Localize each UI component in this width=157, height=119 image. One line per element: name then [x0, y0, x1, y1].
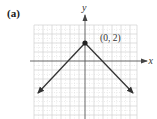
left-branch-line — [38, 43, 85, 93]
vertex-label: (0, 2) — [100, 33, 121, 44]
right-branch-line — [85, 43, 133, 93]
minor-grid — [34, 25, 137, 119]
vertex-point — [82, 40, 87, 45]
x-axis-label: x — [148, 55, 154, 66]
function-graph: x y (0, 2) — [0, 0, 157, 119]
y-axis-label: y — [81, 2, 87, 13]
grid — [34, 25, 137, 119]
